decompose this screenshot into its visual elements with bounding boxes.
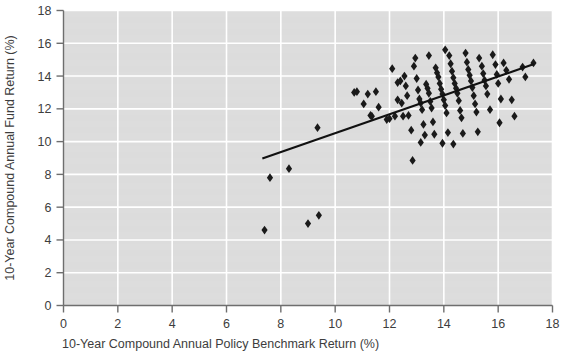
- y-tick-label: 18: [38, 4, 52, 18]
- scatter-chart-figure: 024681012141618024681012141618 10-Year C…: [0, 0, 564, 356]
- x-tick-label: 8: [277, 317, 284, 331]
- x-tick-label: 18: [546, 317, 560, 331]
- y-tick-label: 16: [38, 37, 52, 51]
- y-tick-label: 8: [45, 168, 52, 182]
- x-tick-label: 12: [383, 317, 397, 331]
- x-tick-label: 16: [491, 317, 505, 331]
- x-tick-label: 0: [60, 317, 67, 331]
- y-tick-label: 6: [45, 201, 52, 215]
- x-axis-title: 10-Year Compound Annual Policy Benchmark…: [62, 337, 379, 351]
- y-tick-label: 0: [45, 299, 52, 313]
- chart-canvas: 024681012141618024681012141618 10-Year C…: [0, 0, 564, 356]
- y-tick-label: 12: [38, 102, 52, 116]
- x-tick-label: 6: [223, 317, 230, 331]
- x-tick-label: 14: [437, 317, 451, 331]
- x-tick-label: 4: [169, 317, 176, 331]
- y-tick-label: 10: [38, 135, 52, 149]
- x-tick-label: 10: [328, 317, 342, 331]
- y-tick-label: 2: [45, 266, 52, 280]
- x-tick-label: 2: [114, 317, 121, 331]
- y-tick-label: 14: [38, 70, 52, 84]
- y-axis-title: 10-Year Compound Annual Fund Return (%): [3, 35, 17, 281]
- y-tick-label: 4: [45, 233, 52, 247]
